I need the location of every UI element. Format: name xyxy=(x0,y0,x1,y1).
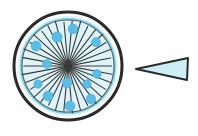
spoke-tip-dot xyxy=(86,94,96,104)
spoke-tip-dot xyxy=(68,24,78,34)
spoke-tip-dot xyxy=(43,91,53,101)
spoke-tip-dot xyxy=(62,78,72,88)
spoke-tip-dot xyxy=(52,32,62,42)
spoke-tip-dot xyxy=(91,37,100,46)
detached-wedge-segment xyxy=(136,58,188,80)
spoke-tip-dot xyxy=(65,101,75,111)
figure-canvas: Radial circular structure with detached … xyxy=(0,0,198,136)
spoke-tip-dot xyxy=(31,41,41,51)
spoke-tip-dot xyxy=(93,70,102,79)
spoke-hub xyxy=(65,63,71,69)
spoke-tip-dot xyxy=(43,60,52,69)
spoke-tip-dot xyxy=(83,80,91,88)
radial-structure-diagram xyxy=(0,0,198,136)
spoke-tip-dot xyxy=(34,80,42,88)
